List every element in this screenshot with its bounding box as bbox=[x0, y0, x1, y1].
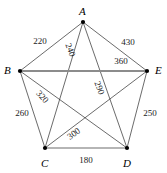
graph-vertex-a bbox=[81, 20, 85, 24]
graph-vertex-d bbox=[125, 146, 129, 150]
graph-canvas bbox=[0, 0, 167, 173]
graph-vertex-c bbox=[43, 146, 47, 150]
vertex-label-b: B bbox=[4, 65, 11, 76]
graph-vertex-e bbox=[145, 69, 149, 73]
edge-weight-ae: 430 bbox=[121, 38, 135, 47]
graph-vertex-b bbox=[18, 69, 22, 73]
edge-weight-be: 360 bbox=[114, 57, 128, 66]
edge-weight-de: 250 bbox=[143, 109, 157, 118]
pentagon-graph-figure: ABCDE220430260250180240290320360300 bbox=[0, 0, 167, 173]
vertex-label-d: D bbox=[123, 158, 131, 169]
edge-weight-ab: 220 bbox=[33, 37, 47, 46]
vertex-label-a: A bbox=[79, 6, 86, 17]
vertex-label-e: E bbox=[155, 65, 162, 76]
edge-weight-cd: 180 bbox=[79, 156, 93, 165]
edge-weight-bc: 260 bbox=[15, 109, 29, 118]
vertex-label-c: C bbox=[41, 158, 48, 169]
